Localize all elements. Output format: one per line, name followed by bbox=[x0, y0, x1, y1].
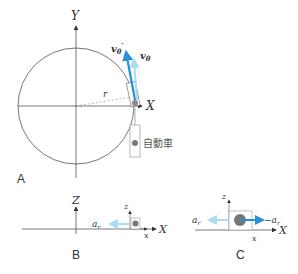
b-Z-label: Z bbox=[71, 194, 80, 207]
panel-b: X Z z x ar B bbox=[22, 194, 168, 262]
panel-c-label: C bbox=[236, 248, 245, 262]
circular-motion-diagram: Y X r vθ′ vθ 自動車 A X Z z x bbox=[0, 0, 298, 274]
b-accel-label: ar bbox=[92, 219, 101, 230]
c-accel-right-label: −ar bbox=[264, 215, 281, 226]
c-x-label: x bbox=[252, 234, 257, 243]
car-wheel bbox=[132, 100, 138, 106]
panel-a-label: A bbox=[17, 172, 25, 186]
b-x-label: x bbox=[144, 231, 149, 240]
car-label: 自動車 bbox=[143, 137, 173, 149]
car-callout-dot bbox=[132, 140, 138, 146]
panel-b-label: B bbox=[72, 248, 80, 262]
x-axis-label: X bbox=[145, 99, 155, 113]
radius-label: r bbox=[103, 89, 108, 99]
v-theta-label: vθ bbox=[140, 50, 151, 63]
b-car-dot bbox=[133, 221, 139, 227]
b-z-label: z bbox=[123, 202, 129, 211]
c-accel-left-label: ar bbox=[192, 215, 201, 226]
panel-a: Y X r vθ′ vθ 自動車 A bbox=[17, 9, 173, 186]
c-z-label: z bbox=[221, 192, 227, 201]
panel-c: X z x ar −ar C bbox=[192, 192, 288, 262]
v-theta-prime-label: vθ′ bbox=[111, 40, 124, 56]
b-X-label: X bbox=[158, 223, 168, 236]
y-axis-label: Y bbox=[71, 9, 80, 23]
